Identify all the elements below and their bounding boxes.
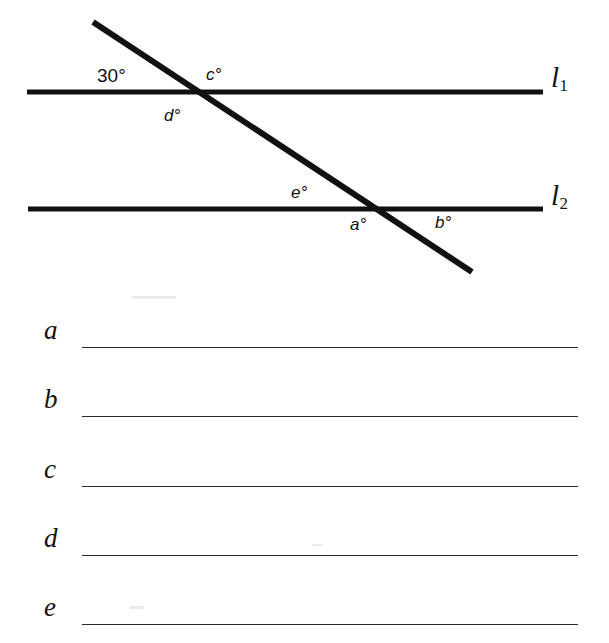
answer-row-a: a <box>0 298 609 348</box>
line-name-l1-subscript: 1 <box>559 76 567 95</box>
answer-blank-e[interactable] <box>82 624 578 625</box>
scan-artifact <box>312 544 323 546</box>
diagram-lines <box>27 22 543 272</box>
geometry-diagram: 30° c° d° e° a° b° l1 l2 <box>0 0 609 300</box>
diagram-canvas <box>0 0 609 300</box>
line-name-l2-letter: l <box>551 179 559 211</box>
answer-row-b: b <box>0 367 609 417</box>
angle-label-c: c° <box>206 66 221 83</box>
answer-blank-a[interactable] <box>82 347 578 348</box>
angle-label-a: a° <box>350 216 366 233</box>
answer-row-d: d <box>0 506 609 556</box>
answer-letter-d: d <box>44 525 58 552</box>
angle-label-e: e° <box>291 184 307 201</box>
transversal-line <box>93 22 472 272</box>
line-name-l2: l2 <box>551 181 567 210</box>
answer-blank-c[interactable] <box>82 486 578 487</box>
angle-label-30: 30° <box>97 66 126 85</box>
answer-row-e: e <box>0 575 609 625</box>
angle-label-b: b° <box>435 214 451 231</box>
answer-letter-b: b <box>44 386 58 413</box>
answer-row-c: c <box>0 437 609 487</box>
line-name-l1-letter: l <box>551 61 559 93</box>
answer-letter-c: c <box>44 456 56 483</box>
answer-lines-section: a b c d e <box>0 300 609 643</box>
worksheet-page: 30° c° d° e° a° b° l1 l2 a b c d <box>0 0 609 643</box>
answer-blank-d[interactable] <box>82 555 578 556</box>
answer-blank-b[interactable] <box>82 416 578 417</box>
scan-artifact <box>130 606 144 609</box>
line-name-l1: l1 <box>551 63 567 92</box>
answer-letter-e: e <box>44 594 56 621</box>
angle-label-d: d° <box>164 107 180 124</box>
line-name-l2-subscript: 2 <box>559 194 567 213</box>
answer-letter-a: a <box>44 317 58 344</box>
